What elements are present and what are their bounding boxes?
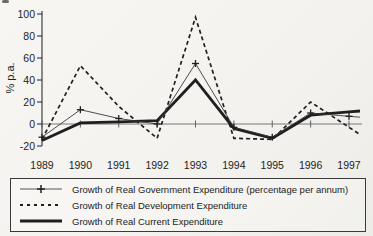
legend-symbol-dashed-line-icon — [19, 199, 63, 211]
svg-text:-20: -20 — [20, 140, 35, 152]
svg-text:0: 0 — [29, 118, 35, 130]
svg-text:1992: 1992 — [145, 159, 169, 171]
svg-text:1994: 1994 — [222, 159, 246, 171]
line-chart: -200204060801001989199019911992199319941… — [0, 0, 373, 176]
legend-item-government: Growth of Real Government Expenditure (p… — [19, 181, 361, 197]
svg-text:1997: 1997 — [337, 159, 361, 171]
legend-item-development: Growth of Real Development Expenditure — [19, 197, 361, 213]
svg-text:20: 20 — [23, 96, 35, 108]
svg-text:60: 60 — [23, 52, 35, 64]
legend-item-current: Growth of Real Current Expenditure — [19, 213, 361, 229]
scanned-chart-figure: % p.a. -20020406080100198919901991199219… — [0, 0, 373, 236]
svg-text:1995: 1995 — [261, 159, 285, 171]
svg-text:80: 80 — [23, 30, 35, 42]
legend: Growth of Real Government Expenditure (p… — [10, 178, 366, 232]
legend-label-current: Growth of Real Current Expenditure — [72, 216, 223, 227]
legend-symbol-plus-line-icon — [19, 183, 63, 195]
legend-label-development: Growth of Real Development Expenditure — [72, 200, 247, 211]
svg-text:1991: 1991 — [107, 159, 131, 171]
svg-text:100: 100 — [17, 8, 35, 20]
svg-text:1996: 1996 — [299, 159, 323, 171]
svg-text:40: 40 — [23, 74, 35, 86]
svg-text:1989: 1989 — [30, 159, 54, 171]
legend-symbol-thick-line-icon — [19, 215, 63, 227]
svg-text:1990: 1990 — [69, 159, 93, 171]
legend-label-government: Growth of Real Government Expenditure (p… — [72, 184, 348, 195]
svg-text:1993: 1993 — [184, 159, 208, 171]
